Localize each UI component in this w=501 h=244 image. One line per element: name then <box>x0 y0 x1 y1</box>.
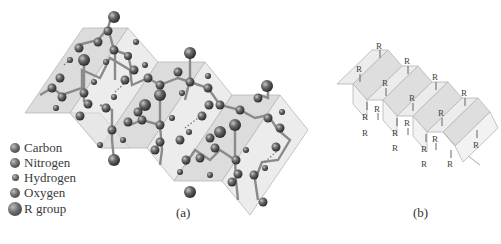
legend-label: Hydrogen <box>24 170 76 186</box>
hydrogen-ball-icon <box>12 174 19 181</box>
r-label: R <box>404 118 410 128</box>
legend-item-oxygen: Oxygen <box>10 185 76 200</box>
legend-item-carbon: Carbon <box>10 140 76 155</box>
r-label: R <box>409 93 415 103</box>
r-label: R <box>432 134 438 144</box>
legend-item-hydrogen: Hydrogen <box>10 170 76 185</box>
r-label: R <box>392 143 398 153</box>
r-label: R <box>461 88 467 98</box>
r-label: R <box>438 108 444 118</box>
legend-item-nitrogen: Nitrogen <box>10 155 76 170</box>
legend-label: Nitrogen <box>24 155 70 171</box>
r-label: R <box>392 128 398 138</box>
atom-legend: Carbon Nitrogen Hydrogen Oxygen R group <box>10 140 76 218</box>
r-label: R <box>362 128 368 138</box>
r-label: R <box>356 64 362 74</box>
r-label: R <box>432 72 438 82</box>
r-label: R <box>376 41 382 51</box>
r-label: R <box>382 78 388 88</box>
r-label: R <box>421 159 427 169</box>
legend-item-r-group: R group <box>10 200 76 218</box>
r-label: R <box>374 104 380 114</box>
nitrogen-ball-icon <box>10 158 20 168</box>
legend-label: Oxygen <box>24 185 65 201</box>
oxygen-ball-icon <box>10 188 20 198</box>
legend-label: R group <box>24 201 66 217</box>
legend-label: Carbon <box>24 140 62 156</box>
carbon-ball-icon <box>10 143 20 153</box>
panel-b-schematic-sheet: R R R R R R R R R R R R R R R R R R R (b… <box>330 40 501 244</box>
r-label: R <box>421 144 427 154</box>
panel-a-ball-and-stick: Carbon Nitrogen Hydrogen Oxygen R group … <box>0 0 330 244</box>
r-label: R <box>473 140 479 150</box>
r-label: R <box>404 56 410 66</box>
r-label: R <box>447 159 453 169</box>
r-group-ball-icon <box>8 202 22 216</box>
caption-a: (a) <box>176 205 190 221</box>
r-label: R <box>362 112 368 122</box>
caption-b: (b) <box>413 205 428 221</box>
